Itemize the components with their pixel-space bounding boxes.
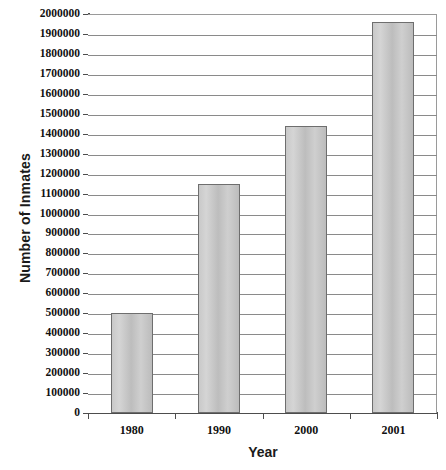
y-tick-label: 1300000: [2, 148, 80, 160]
y-tick-mark: [83, 194, 88, 195]
y-tick-label: 1400000: [2, 128, 80, 140]
bar-1980: [111, 313, 153, 413]
y-tick-label: 1700000: [2, 68, 80, 80]
y-tick-mark: [83, 134, 88, 135]
y-tick-label: 1500000: [2, 108, 80, 120]
y-tick-mark: [83, 333, 88, 334]
y-tick-mark: [83, 313, 88, 314]
y-axis-title: Number of Inmates: [17, 108, 33, 328]
y-tick-mark: [83, 34, 88, 35]
y-tick-label: 100000: [2, 387, 80, 399]
x-tick-label-2001: 2001: [348, 423, 438, 438]
x-axis-title: Year: [88, 444, 438, 460]
y-tick-mark: [83, 54, 88, 55]
y-tick-label: 1800000: [2, 48, 80, 60]
y-tick-label: 600000: [2, 287, 80, 299]
y-tick-label: 1000000: [2, 208, 80, 220]
bar-1990: [198, 184, 240, 413]
y-tick-label: 500000: [2, 307, 80, 319]
x-tick-label-2000: 2000: [261, 423, 351, 438]
y-tick-label: 300000: [2, 347, 80, 359]
bar-2000: [285, 126, 327, 413]
y-tick-label: 400000: [2, 327, 80, 339]
y-tick-label: 200000: [2, 367, 80, 379]
y-tick-mark: [83, 114, 88, 115]
x-tick-label-1990: 1990: [174, 423, 264, 438]
bar-chart: 2000000190000018000001700000160000015000…: [0, 0, 446, 470]
y-tick-label: 1200000: [2, 168, 80, 180]
y-tick-label: 1100000: [2, 188, 80, 200]
y-tick-label: 1600000: [2, 88, 80, 100]
y-tick-mark: [83, 233, 88, 234]
y-tick-label: 2000000: [2, 8, 80, 20]
x-tick-mark: [437, 413, 438, 419]
x-tick-mark: [263, 413, 264, 419]
y-tick-mark: [83, 353, 88, 354]
y-tick-mark: [83, 174, 88, 175]
y-tick-mark: [83, 214, 88, 215]
y-tick-mark: [83, 393, 88, 394]
y-tick-mark: [83, 14, 88, 15]
y-tick-label: 1900000: [2, 28, 80, 40]
y-tick-label: 700000: [2, 267, 80, 279]
y-tick-mark: [83, 154, 88, 155]
y-tick-mark: [83, 94, 88, 95]
x-tick-mark: [88, 413, 89, 419]
y-tick-label: 800000: [2, 247, 80, 259]
x-tick-mark: [175, 413, 176, 419]
y-tick-label: 900000: [2, 227, 80, 239]
y-tick-mark: [83, 74, 88, 75]
x-tick-label-1980: 1980: [87, 423, 177, 438]
bar-2001: [372, 22, 414, 413]
y-tick-label: 0: [2, 407, 80, 419]
y-tick-mark: [83, 373, 88, 374]
x-tick-mark: [350, 413, 351, 419]
y-tick-mark: [83, 293, 88, 294]
y-tick-mark: [83, 273, 88, 274]
y-tick-mark: [83, 253, 88, 254]
